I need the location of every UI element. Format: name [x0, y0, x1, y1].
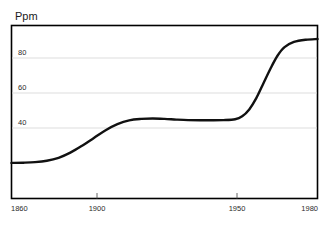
x-tick-label-1900: 1900 — [89, 204, 106, 213]
y-tick-label-80: 80 — [18, 48, 26, 57]
plot-area-frame — [12, 26, 318, 199]
y-tick-label-40: 40 — [18, 118, 26, 127]
chart-container: Ppm 80 60 40 1860 1900 1950 1980 — [0, 0, 333, 225]
x-tick-label-1950: 1950 — [229, 204, 246, 213]
y-axis-title: Ppm — [15, 10, 38, 22]
x-tick-label-1860: 1860 — [11, 204, 28, 213]
ppm-line-chart: Ppm 80 60 40 1860 1900 1950 1980 — [0, 0, 333, 225]
y-tick-label-60: 60 — [18, 83, 26, 92]
x-tick-label-1980: 1980 — [301, 204, 318, 213]
